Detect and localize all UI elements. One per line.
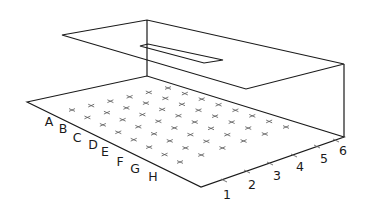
diagram-canvas: ABCDEFGH 123456 — [0, 0, 365, 208]
well-marker-F2 — [167, 139, 173, 142]
well-marker-B1 — [84, 116, 90, 119]
column-label-4: 4 — [296, 159, 304, 174]
well-marker-B5 — [162, 97, 168, 100]
well-marker-B2 — [104, 111, 110, 114]
column-labels: 123456 — [223, 143, 347, 202]
well-marker-F1 — [146, 146, 152, 149]
well-marker-D2 — [135, 125, 141, 128]
well-marker-B6 — [182, 92, 188, 95]
well-marker-H6 — [283, 126, 289, 129]
column-label-5: 5 — [320, 151, 328, 166]
well-marker-H5 — [262, 133, 268, 136]
well-marker-F6 — [249, 114, 255, 117]
well-marker-C4 — [159, 108, 165, 111]
well-marker-A3 — [107, 100, 113, 103]
well-marker-A5 — [146, 91, 152, 94]
well-marker-F4 — [208, 127, 214, 130]
well-marker-F3 — [187, 133, 193, 136]
plate-diagram: ABCDEFGH 123456 — [0, 0, 365, 208]
well-marker-E4 — [192, 121, 198, 124]
well-marker-A1 — [69, 109, 75, 112]
row-label-G: G — [130, 161, 140, 176]
well-marker-C2 — [120, 118, 126, 121]
well-marker-C6 — [199, 98, 205, 101]
well-marker-A4 — [127, 95, 133, 98]
well-marker-C1 — [100, 123, 106, 126]
well-marker-H3 — [219, 147, 225, 150]
well-marker-H4 — [241, 140, 247, 143]
well-marker-E1 — [131, 138, 137, 141]
row-label-B: B — [59, 121, 68, 136]
well-marker-G1 — [162, 153, 168, 156]
well-marker-G5 — [245, 127, 251, 130]
column-label-3: 3 — [273, 168, 281, 183]
well-marker-E2 — [151, 132, 157, 135]
well-marker-D3 — [155, 120, 161, 123]
well-marker-G3 — [203, 140, 209, 143]
well-marker-G4 — [224, 133, 230, 136]
well-marker-C5 — [179, 103, 185, 106]
row-label-H: H — [148, 169, 157, 184]
top-cover-plane — [62, 20, 344, 89]
well-marker-B4 — [143, 102, 149, 105]
column-label-1: 1 — [223, 187, 231, 202]
column-label-2: 2 — [248, 177, 256, 192]
row-label-C: C — [73, 130, 82, 145]
well-marker-D6 — [216, 103, 222, 106]
well-marker-G2 — [182, 147, 188, 150]
well-marker-F5 — [229, 121, 235, 124]
well-marker-A2 — [88, 104, 94, 107]
column-label-6: 6 — [339, 143, 347, 158]
well-marker-D5 — [196, 109, 202, 112]
well-marker-H2 — [198, 154, 204, 157]
well-marker-C3 — [139, 113, 145, 116]
well-marker-H1 — [177, 161, 183, 164]
well-marker-D1 — [115, 131, 121, 134]
well-marker-E3 — [171, 127, 177, 130]
well-marker-B3 — [123, 106, 129, 109]
well-marker-A6 — [165, 87, 171, 90]
well-marker-D4 — [175, 114, 181, 117]
row-label-A: A — [45, 114, 54, 129]
row-label-D: D — [88, 137, 98, 152]
row-label-E: E — [101, 144, 109, 159]
cover-slot — [140, 44, 223, 63]
well-marker-G6 — [266, 120, 272, 123]
row-label-F: F — [116, 154, 123, 169]
well-marker-E5 — [212, 115, 218, 118]
well-marker-E6 — [232, 109, 238, 112]
